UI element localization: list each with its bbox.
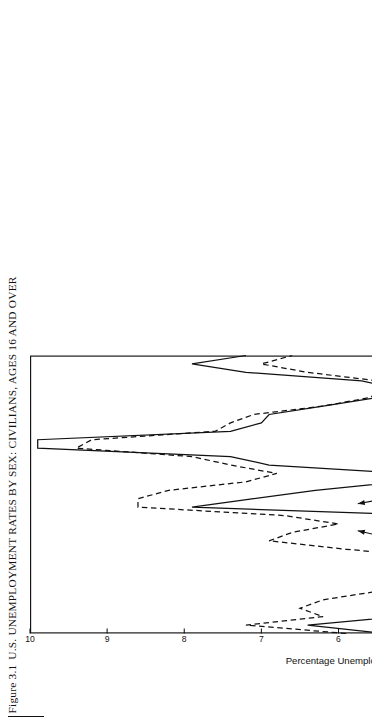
y-axis-tick-labels: 2345678910 [25, 633, 372, 643]
y-tick-label: 9 [105, 633, 110, 643]
y-tick-label: 6 [336, 633, 341, 643]
men-arrow-head [357, 499, 365, 505]
series-line-men [38, 355, 372, 633]
unemployment-line-chart: MenWomen [30, 355, 372, 633]
men-leader-line [358, 486, 372, 503]
women-arrow-head [357, 528, 365, 535]
women-leader-line [358, 530, 372, 560]
plot-frame [31, 356, 372, 633]
y-axis-ticks [30, 628, 372, 633]
women-annotation: Women [357, 528, 372, 563]
figure-title: U.S. UNEMPLOYMENT RATES BY SEX: CIVILIAN… [6, 276, 18, 659]
figure-page: Figure 3.1U.S. UNEMPLOYMENT RATES BY SEX… [0, 0, 372, 721]
figure-number: Figure 3.1 [6, 664, 18, 713]
series-annotations: MenWomen [357, 477, 372, 562]
page-rule [8, 716, 44, 717]
y-axis-title: Percentage Unemployed [286, 654, 372, 665]
y-tick-label: 10 [25, 633, 35, 643]
men-annotation: Men [357, 477, 372, 505]
figure-caption: Figure 3.1U.S. UNEMPLOYMENT RATES BY SEX… [6, 276, 18, 713]
y-tick-label: 7 [259, 633, 264, 643]
rotated-figure-canvas: Figure 3.1U.S. UNEMPLOYMENT RATES BY SEX… [0, 0, 372, 721]
chart-plot-area: MenWomen [30, 355, 372, 633]
series-line-women [76, 355, 372, 633]
y-tick-label: 8 [182, 633, 187, 643]
